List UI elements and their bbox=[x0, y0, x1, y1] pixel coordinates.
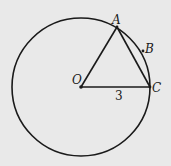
point-b-dot bbox=[142, 50, 145, 53]
label-b: B bbox=[144, 42, 154, 56]
segment-ac bbox=[117, 27, 150, 87]
label-a: A bbox=[111, 13, 121, 27]
segment-oa bbox=[81, 27, 117, 87]
label-o: O bbox=[72, 73, 82, 87]
circle-diagram: A B C O 3 bbox=[0, 0, 171, 166]
label-c: C bbox=[152, 81, 161, 95]
point-c-dot bbox=[149, 86, 152, 89]
diagram-svg: A B C O 3 bbox=[0, 0, 171, 166]
label-oc-length: 3 bbox=[115, 89, 123, 103]
